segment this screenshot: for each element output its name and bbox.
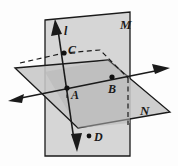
geometry-figure: M N l C A B D [0,0,178,166]
intersection-arrow-left [8,94,24,103]
label-point-b: B [108,83,116,95]
intersection-arrow-right [152,64,170,74]
label-plane-m: M [120,18,132,31]
point-c-dot [61,50,66,55]
label-point-c: C [68,44,76,56]
point-b-dot [109,74,114,79]
label-line-l: l [64,25,67,37]
label-plane-n: N [140,104,149,117]
label-point-a: A [71,89,79,101]
label-point-d: D [94,131,103,143]
point-d-dot [87,134,92,139]
geometry-diagram [0,0,178,166]
point-a-dot [64,85,69,90]
